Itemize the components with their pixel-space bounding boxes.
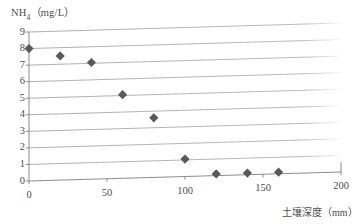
y-axis-tick-label: 2 — [9, 142, 25, 153]
scatter-chart: NH4（mg/L） 0123456789 050100150200 土壤深度（m… — [0, 0, 359, 224]
x-axis-ticks — [29, 172, 341, 184]
plot-area — [29, 32, 341, 181]
y-axis-tick-label: 7 — [9, 60, 25, 71]
x-axis-tick-label: 50 — [102, 187, 113, 198]
y-axis-tick-label: 4 — [9, 109, 25, 120]
data-point — [118, 90, 127, 99]
y-axis-title: NH4（mg/L） — [11, 4, 74, 21]
data-point — [212, 169, 221, 178]
y-axis-tick-label: 9 — [9, 27, 25, 38]
y-axis-title-unit: （mg/L） — [31, 7, 75, 18]
y-axis-tick-label: 3 — [9, 126, 25, 137]
data-point — [56, 51, 65, 60]
y-axis-tick-label: 6 — [9, 76, 25, 87]
x-axis-tick-label: 100 — [177, 185, 193, 196]
y-axis-ticks — [26, 32, 29, 181]
x-axis-title: 土壤深度（mm） — [282, 204, 358, 219]
x-axis-tick-labels: 050100150200 — [29, 185, 341, 199]
y-axis-title-subscript: 4 — [27, 13, 31, 22]
y-axis-tick-label: 0 — [9, 176, 25, 187]
plot-svg — [29, 32, 341, 181]
gridlines — [29, 23, 341, 164]
data-point — [24, 44, 33, 53]
x-axis-tick-label: 200 — [333, 180, 349, 191]
y-axis-tick-label: 5 — [9, 93, 25, 104]
y-axis-tick-label: 8 — [9, 43, 25, 54]
y-axis-title-base: NH — [11, 7, 27, 18]
data-point — [180, 155, 189, 164]
x-axis-tick-label: 150 — [255, 182, 271, 193]
data-point — [87, 58, 96, 67]
data-point — [149, 113, 158, 122]
y-axis-tick-labels: 0123456789 — [5, 32, 25, 181]
y-axis-tick-label: 1 — [9, 159, 25, 170]
data-point — [274, 168, 283, 177]
data-point — [243, 168, 252, 177]
x-axis-tick-label: 0 — [26, 189, 31, 200]
